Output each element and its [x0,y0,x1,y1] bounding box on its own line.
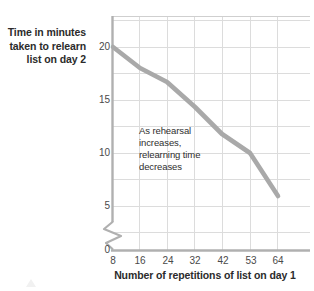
annotation-line-3: relearning time [139,149,215,161]
y-tick-label-5: 5 [86,200,110,211]
annotation-line-2: increases, [139,137,215,149]
x-tick-label-16: 16 [127,255,153,266]
y-tick-label-0: 0 [86,244,110,255]
x-tick-label-24: 24 [155,255,181,266]
y-axis-title: Time in minutes taken to relearn list on… [4,26,86,67]
data-series-line [113,47,278,196]
y-axis-title-line-3: list on day 2 [4,53,86,67]
y-axis-title-line-1: Time in minutes [4,26,86,40]
chart-annotation: As rehearsal increases, relearning time … [139,125,215,173]
annotation-line-1: As rehearsal [139,125,215,137]
x-tick-label-8: 8 [100,255,126,266]
x-tick-label-32: 32 [182,255,208,266]
x-axis-title: Number of repetitions of list on day 1 [96,269,314,281]
y-tick-label-10: 10 [86,147,110,158]
x-tick-label-64: 64 [265,255,291,266]
y-tick-label-20: 20 [86,41,110,52]
x-tick-label-42: 42 [210,255,236,266]
x-tick-label-53: 53 [238,255,264,266]
chart-figure: Time in minutes taken to relearn list on… [0,0,314,291]
annotation-line-4: decreases [139,161,215,173]
y-tick-label-15: 15 [86,94,110,105]
y-axis-title-line-2: taken to relearn [4,40,86,54]
